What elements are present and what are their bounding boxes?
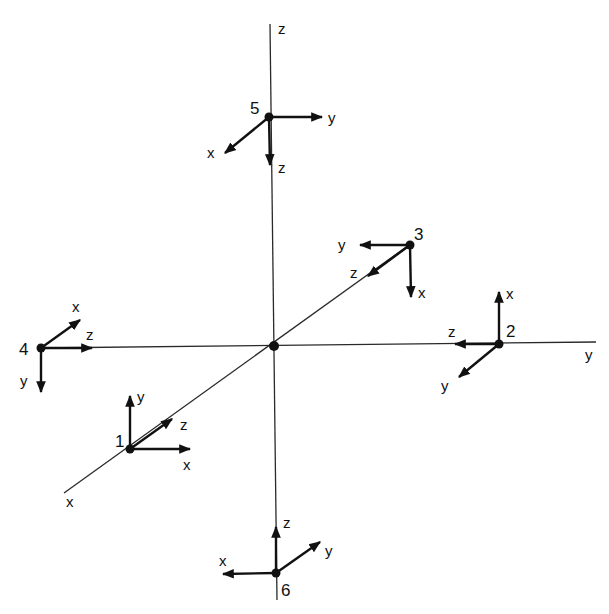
global-y-label: y bbox=[585, 346, 593, 363]
frame-2-dot bbox=[495, 340, 504, 349]
frame-3-y-label: y bbox=[338, 236, 346, 253]
frame-1-y-label: y bbox=[137, 388, 145, 405]
global-z-label: z bbox=[278, 20, 286, 37]
global-x-label: x bbox=[66, 493, 74, 510]
frame-3-z-arrow bbox=[368, 245, 410, 276]
frame-6-x-label: x bbox=[219, 552, 227, 569]
global-z-axis bbox=[270, 24, 277, 600]
frame-1-dot bbox=[126, 445, 135, 454]
frame-2-number: 2 bbox=[506, 322, 515, 341]
frame-1-z-label: z bbox=[180, 416, 188, 433]
coordinate-frames-diagram: z y x 5 y x z 3 y z x 2 x z y bbox=[0, 0, 609, 614]
frame-5-number: 5 bbox=[250, 99, 259, 118]
frame-6-z-label: z bbox=[283, 514, 291, 531]
frame-5-x-arrow bbox=[225, 117, 269, 153]
frame-6-y-label: y bbox=[325, 542, 333, 559]
global-axes: z y x bbox=[38, 20, 596, 600]
frame-4-z-label: z bbox=[86, 326, 94, 343]
frame-2: 2 x z y bbox=[441, 285, 515, 394]
frame-4: 4 x z y bbox=[19, 298, 94, 392]
global-y-axis bbox=[38, 342, 596, 348]
global-x-axis bbox=[64, 245, 409, 493]
frame-1-number: 1 bbox=[115, 432, 124, 451]
frame-2-y-arrow bbox=[459, 344, 499, 377]
frame-6-x-arrow bbox=[223, 573, 276, 574]
frame-5-z-label: z bbox=[278, 159, 286, 176]
frame-6-number: 6 bbox=[281, 581, 290, 600]
frame-2-x-label: x bbox=[506, 285, 514, 302]
frame-1-x-label: x bbox=[183, 456, 191, 473]
frame-5-x-label: x bbox=[207, 144, 215, 161]
frame-2-z-label: z bbox=[448, 323, 456, 340]
frame-6-y-arrow bbox=[276, 542, 320, 573]
frame-6-dot bbox=[272, 569, 281, 578]
frame-4-x-arrow bbox=[41, 320, 80, 348]
frame-3-x-arrow bbox=[410, 245, 411, 297]
frame-5-y-label: y bbox=[328, 109, 336, 126]
frame-2-y-label: y bbox=[441, 377, 449, 394]
frame-4-dot bbox=[37, 344, 46, 353]
frame-5-z-arrow bbox=[269, 117, 270, 165]
frame-3-z-label: z bbox=[350, 264, 358, 281]
origin-dot bbox=[269, 341, 279, 351]
frame-3: 3 y z x bbox=[338, 225, 426, 301]
frame-1-z-arrow bbox=[130, 419, 172, 449]
frame-5-dot bbox=[265, 113, 274, 122]
frame-4-x-label: x bbox=[72, 298, 80, 315]
frame-4-y-label: y bbox=[20, 372, 28, 389]
frame-3-number: 3 bbox=[414, 225, 423, 244]
frame-3-x-label: x bbox=[418, 284, 426, 301]
frame-4-number: 4 bbox=[19, 340, 28, 359]
frame-1: 1 y z x bbox=[115, 388, 191, 473]
